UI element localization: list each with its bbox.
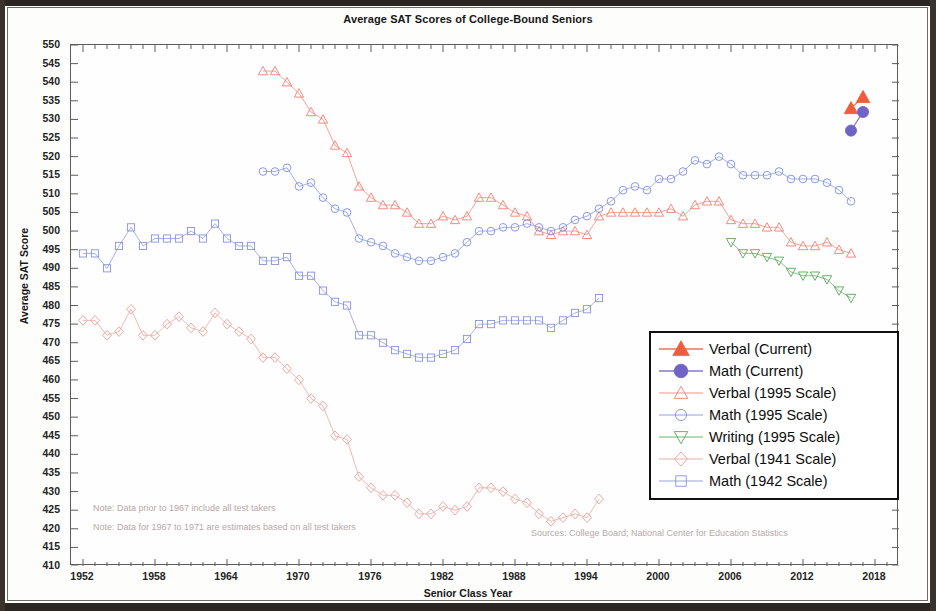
series-math-1995-scale: [259, 153, 855, 265]
y-tick-label: 535: [26, 95, 60, 105]
y-tick-label: 435: [26, 467, 60, 477]
x-tick-label: 2000: [638, 570, 678, 582]
note-estimates-1967-1971: Note: Data for 1967 to 1971 are estimate…: [93, 522, 356, 532]
legend-label: Math (1942 Scale): [705, 473, 827, 489]
x-tick-label: 1988: [494, 570, 534, 582]
legend-item[interactable]: Verbal (1995 Scale): [657, 382, 891, 404]
series-line: [83, 309, 599, 521]
chart-page: Average SAT Scores of College-Bound Seni…: [0, 0, 936, 611]
x-axis-label: Senior Class Year: [0, 587, 936, 599]
legend-label: Verbal (1995 Scale): [705, 385, 836, 401]
data-marker: [845, 125, 856, 136]
y-tick-label: 475: [26, 318, 60, 328]
data-marker: [474, 193, 483, 201]
page-frame-left: [0, 0, 5, 611]
series-line: [83, 224, 599, 358]
legend-item[interactable]: Verbal (1941 Scale): [657, 448, 891, 470]
y-tick-label: 450: [26, 411, 60, 421]
legend-item[interactable]: Math (1995 Scale): [657, 404, 891, 426]
data-marker: [606, 208, 615, 216]
legend-marker: [657, 405, 705, 425]
legend-marker: [657, 383, 705, 403]
legend-label: Verbal (Current): [705, 341, 812, 357]
y-tick-label: 480: [26, 300, 60, 310]
legend-item[interactable]: Math (1942 Scale): [657, 470, 891, 492]
chart-legend: Verbal (Current)Math (Current)Verbal (19…: [649, 331, 899, 500]
y-tick-label: 430: [26, 486, 60, 496]
x-tick-label: 1964: [206, 570, 246, 582]
legend-marker: [657, 471, 705, 491]
series-verbal-1995-scale: [258, 66, 855, 257]
legend-label: Math (1995 Scale): [705, 407, 827, 423]
legend-item[interactable]: Math (Current): [657, 360, 891, 382]
y-tick-label: 545: [26, 58, 60, 68]
data-marker: [856, 90, 870, 102]
data-marker: [857, 106, 868, 117]
legend-marker: [657, 361, 705, 381]
legend-label: Writing (1995 Scale): [705, 429, 840, 445]
chart-title: Average SAT Scores of College-Bound Seni…: [0, 13, 936, 25]
legend-label: Verbal (1941 Scale): [705, 451, 836, 467]
data-marker: [847, 197, 855, 205]
data-marker: [774, 223, 783, 231]
y-tick-label: 415: [26, 541, 60, 551]
data-marker: [673, 341, 690, 356]
x-tick-label: 1976: [350, 570, 390, 582]
legend-item[interactable]: Writing (1995 Scale): [657, 426, 891, 448]
x-tick-label: 1952: [62, 570, 102, 582]
data-marker: [674, 432, 688, 444]
y-tick-label: 470: [26, 337, 60, 347]
y-tick-label: 410: [26, 560, 60, 570]
series-verbal-1941-scale: [79, 304, 604, 526]
x-tick-label: 2006: [710, 570, 750, 582]
page-frame-top: [0, 0, 936, 6]
y-tick-label: 515: [26, 169, 60, 179]
data-marker: [674, 364, 688, 378]
data-marker: [702, 197, 711, 205]
series-math-1942-scale: [79, 220, 602, 361]
data-marker: [630, 208, 639, 216]
y-tick-label: 440: [26, 448, 60, 458]
x-tick-label: 2018: [854, 570, 894, 582]
y-tick-label: 520: [26, 151, 60, 161]
series-line: [263, 71, 851, 253]
x-tick-label: 1958: [134, 570, 174, 582]
data-marker: [642, 208, 651, 216]
y-tick-label: 500: [26, 225, 60, 235]
legend-item[interactable]: Verbal (Current): [657, 338, 891, 360]
series-line: [263, 157, 851, 261]
y-tick-label: 465: [26, 355, 60, 365]
legend-label: Math (Current): [705, 363, 803, 379]
y-tick-label: 420: [26, 523, 60, 533]
y-tick-label: 490: [26, 262, 60, 272]
y-tick-label: 495: [26, 244, 60, 254]
y-tick-label: 550: [26, 39, 60, 49]
y-tick-label: 525: [26, 132, 60, 142]
x-tick-label: 1970: [278, 570, 318, 582]
series-line: [731, 242, 851, 298]
page-frame-right: [930, 0, 936, 611]
x-tick-label: 1994: [566, 570, 606, 582]
data-marker: [570, 226, 579, 234]
source-note: Sources: College Board; National Center …: [531, 528, 788, 538]
y-tick-label: 425: [26, 504, 60, 514]
note-prior-1967: Note: Data prior to 1967 include all tes…: [93, 503, 276, 513]
data-marker: [674, 386, 688, 398]
y-tick-label: 460: [26, 374, 60, 384]
legend-marker: [657, 339, 705, 359]
page-frame-bottom: [0, 603, 936, 611]
y-tick-label: 455: [26, 393, 60, 403]
y-tick-label: 485: [26, 281, 60, 291]
data-marker: [258, 66, 267, 74]
data-marker: [618, 208, 627, 216]
data-marker: [798, 272, 807, 280]
data-marker: [750, 219, 759, 227]
data-marker: [714, 197, 723, 205]
y-tick-label: 505: [26, 206, 60, 216]
y-tick-label: 530: [26, 113, 60, 123]
y-tick-label: 510: [26, 188, 60, 198]
x-tick-label: 1982: [422, 570, 462, 582]
legend-marker: [657, 449, 705, 469]
x-tick-label: 2012: [782, 570, 822, 582]
legend-marker: [657, 427, 705, 447]
